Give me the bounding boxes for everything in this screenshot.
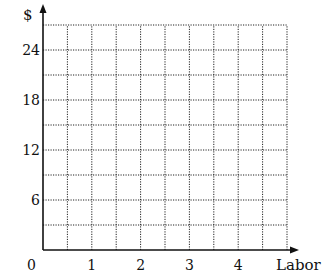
x-tick-label: 2 (136, 257, 145, 273)
y-axis-label: $ (23, 6, 33, 24)
x-tick-label: 1 (87, 257, 96, 273)
grid (43, 25, 287, 250)
y-tick-label: 12 (22, 142, 40, 158)
x-axis-arrow-icon (290, 247, 299, 254)
chart: 12346121824 $ Labor 0 (0, 0, 334, 277)
x-axis-label: Labor (276, 256, 322, 274)
y-tick-label: 6 (31, 192, 40, 208)
origin-label: 0 (27, 257, 36, 273)
y-axis-arrow-icon (40, 4, 47, 13)
x-tick-label: 3 (185, 257, 194, 273)
y-tick-label: 24 (22, 42, 40, 58)
tick-labels: 12346121824 (22, 42, 243, 273)
axes (40, 4, 300, 254)
x-tick-label: 4 (234, 257, 243, 273)
y-tick-label: 18 (22, 92, 40, 108)
